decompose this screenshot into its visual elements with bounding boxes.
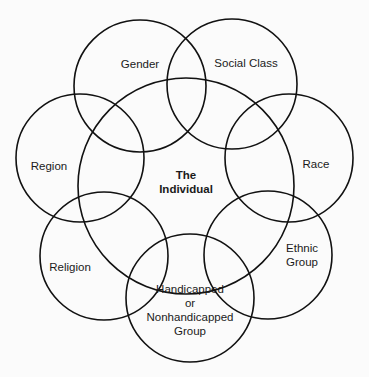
handicapped-label: HandicappedorNonhandicappedGroup [147,283,234,337]
ethnic-group-label: EthnicGroup [286,242,318,268]
individual-label: TheIndividual [159,169,213,195]
gender-circle [74,20,206,152]
race-label-line: Race [303,158,330,170]
ethnic-group-label-line: Ethnic [286,242,318,254]
handicapped-label-line: Handicapped [156,283,224,295]
region-label-line: Region [31,160,67,172]
social-class-label: Social Class [214,57,278,69]
religion-label: Religion [49,261,91,273]
social-class-label-line: Social Class [214,57,278,69]
individual-label-line: Individual [159,183,213,195]
region-label: Region [31,160,67,172]
handicapped-label-line: Nonhandicapped [147,311,234,323]
race-label: Race [303,158,330,170]
individual-label-line: The [176,169,196,181]
gender-label-line: Gender [121,58,160,70]
handicapped-label-line: or [185,297,195,309]
ethnic-group-circle [204,191,332,319]
handicapped-label-line: Group [174,325,206,337]
individual-identity-diagram: TheIndividualGenderSocial ClassRegionRac… [0,0,369,377]
ethnic-group-label-line: Group [286,256,318,268]
gender-label: Gender [121,58,160,70]
religion-label-line: Religion [49,261,91,273]
race-circle [225,94,353,222]
